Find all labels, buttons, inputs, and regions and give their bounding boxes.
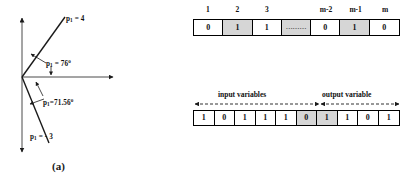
panel-c-variable-string: input variables output variable 10111011…	[188, 88, 405, 184]
cell-bit: 0	[297, 111, 318, 125]
cell-bit: 0	[194, 20, 223, 35]
chromosome-cell-row-c: 1011101101	[193, 110, 400, 126]
cell-bit: 0	[358, 111, 379, 125]
cell-bit: 1	[223, 20, 252, 35]
output-variable-label: output variable	[322, 90, 371, 99]
cell-bit: 1	[338, 111, 359, 125]
panel-b-chromosome-string: 123m-2m-1m 011………010 (b)	[188, 0, 405, 72]
cell-bit: 0	[215, 111, 236, 125]
index-header: m-2	[311, 5, 341, 14]
vector-diagram-svg	[0, 0, 180, 184]
index-header: 2	[223, 5, 253, 14]
cell-bit: 1	[276, 111, 297, 125]
index-header: m	[370, 5, 400, 14]
cell-bit: 1	[317, 111, 338, 125]
index-header: m-1	[341, 5, 371, 14]
cell-bit: 1	[253, 20, 282, 35]
cell-bit: 0	[311, 20, 340, 35]
lower-ray-label: p1 = - 3	[30, 133, 53, 141]
upper-ray-label: p1 = 4	[66, 15, 85, 23]
lower-angle-axis-pointer	[36, 82, 43, 96]
cell-ellipsis: ………	[282, 20, 311, 35]
upper-ray-line	[22, 17, 65, 77]
lower-angle-label: p1=71.56o	[43, 97, 73, 107]
index-header: 3	[252, 5, 282, 14]
upper-angle-label: p1 = 76o	[46, 58, 71, 68]
cell-bit: 1	[256, 111, 277, 125]
cell-bit: 1	[194, 111, 215, 125]
cell-bit: 0	[370, 20, 399, 35]
cell-bit: 1	[340, 20, 369, 35]
index-header: 1	[193, 5, 223, 14]
cell-bit: 1	[235, 111, 256, 125]
panel-a-vector-diagram: p1 = 4 p1 = 76o p1=71.56o p1 = - 3 (a)	[0, 0, 180, 184]
cell-bit: 1	[379, 111, 400, 125]
caption-panel-a: (a)	[52, 160, 65, 172]
figure-root: p1 = 4 p1 = 76o p1=71.56o p1 = - 3 (a) 1…	[0, 0, 405, 184]
chromosome-cell-row-b: 011………010	[193, 19, 400, 36]
input-variables-label: input variables	[218, 90, 266, 99]
